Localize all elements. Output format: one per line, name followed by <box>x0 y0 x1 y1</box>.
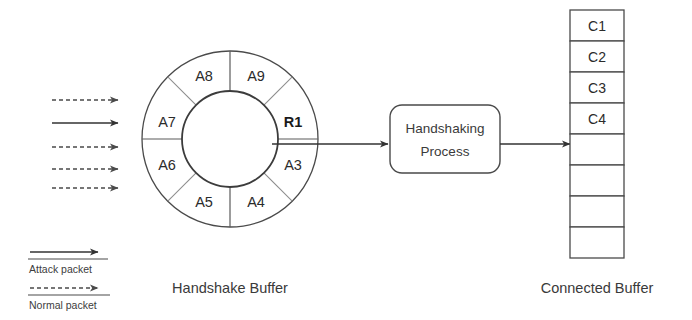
connected-buffer-cell-rect-5 <box>570 134 624 165</box>
ring-sector-label-a8: A8 <box>195 68 213 84</box>
ring-sector-label-a7: A7 <box>158 114 176 130</box>
connected-buffer-cell-label-4: C4 <box>588 111 606 127</box>
connected-buffer-cell-c1: C1 <box>570 10 624 41</box>
handshaking-process-line1: Handshaking <box>406 121 485 136</box>
ring-sector-label-a6: A6 <box>158 157 176 173</box>
diagram-canvas: A9 R1 A3 A4 A5 A6 A7 A8 Handshake Buffer… <box>0 0 692 320</box>
connected-buffer-cell-c3: C3 <box>570 72 624 103</box>
connected-buffer-cell-empty-6 <box>570 165 624 196</box>
ring-sector-label-a9: A9 <box>247 68 265 84</box>
connected-buffer-cell-rect-6 <box>570 165 624 196</box>
ring-sector-label-a5: A5 <box>195 194 213 210</box>
connected-buffer-cell-rect-7 <box>570 196 624 227</box>
handshaking-process-line2: Process <box>421 144 470 159</box>
connected-buffer-cell-label-3: C3 <box>588 80 606 96</box>
ring-inner-circle <box>182 91 278 187</box>
connected-buffer-cell-empty-8 <box>570 227 624 258</box>
connected-buffer-cell-rect-8 <box>570 227 624 258</box>
network-flow-diagram: A9 R1 A3 A4 A5 A6 A7 A8 Handshake Buffer… <box>0 0 692 320</box>
handshaking-process-box: Handshaking Process <box>390 105 500 173</box>
connected-buffer-caption: Connected Buffer <box>541 280 654 296</box>
ring-sector-label-a3: A3 <box>284 157 302 173</box>
legend-normal-packet-label: Normal packet <box>29 299 97 311</box>
connected-buffer-cell-c2: C2 <box>570 41 624 72</box>
connected-buffer-cell-label-2: C2 <box>588 49 606 65</box>
legend: Attack packet Normal packet <box>28 252 110 311</box>
handshake-buffer-caption: Handshake Buffer <box>172 280 288 296</box>
connected-buffer-cell-label-1: C1 <box>588 18 606 34</box>
connected-buffer-stack: C1 C2 C3 C4 <box>570 10 624 258</box>
connected-buffer-cell-empty-5 <box>570 134 624 165</box>
legend-item-attack-packet: Attack packet <box>28 252 108 275</box>
connected-buffer-cell-c4: C4 <box>570 103 624 134</box>
handshake-buffer-ring: A9 R1 A3 A4 A5 A6 A7 A8 <box>142 51 318 227</box>
handshaking-process-rect <box>390 105 500 173</box>
legend-item-normal-packet: Normal packet <box>28 288 110 311</box>
incoming-packet-arrows <box>52 100 118 188</box>
ring-sector-label-r1: R1 <box>284 114 303 130</box>
ring-sector-label-a4: A4 <box>247 194 265 210</box>
legend-attack-packet-label: Attack packet <box>29 263 92 275</box>
connected-buffer-cell-empty-7 <box>570 196 624 227</box>
